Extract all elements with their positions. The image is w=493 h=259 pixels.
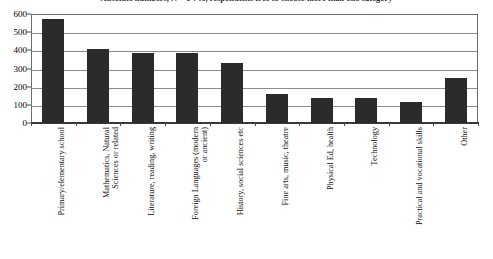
x-axis-category-label: Literature, reading, writing xyxy=(147,127,156,255)
x-axis-category-label: Practical and vocational skills xyxy=(415,127,424,255)
y-tick-label-200: 200 xyxy=(14,82,28,91)
x-tick xyxy=(389,123,390,126)
bar xyxy=(132,53,154,123)
bar xyxy=(311,98,333,123)
x-tick xyxy=(210,123,211,126)
x-tick xyxy=(255,123,256,126)
x-axis-category-label: Mathematics, Natural Sciences or related xyxy=(102,127,121,255)
x-tick xyxy=(344,123,345,126)
x-axis-category-label: Primary/elementary school xyxy=(57,127,66,255)
x-axis-category-label: Foreign Languages (modern or ancient) xyxy=(191,127,210,255)
y-tick-label-100: 100 xyxy=(14,100,28,109)
x-axis-category-label: Physical Ed, health xyxy=(326,127,335,255)
x-tick xyxy=(433,123,434,126)
x-axis-labels: Primary/elementary schoolMathematics, Na… xyxy=(31,127,478,259)
bar xyxy=(355,98,377,123)
y-tick-label-600: 600 xyxy=(14,10,28,19)
bar xyxy=(400,102,422,123)
y-axis: 6005004003002001000 xyxy=(0,14,27,123)
bar-chart-figure: Absolute numbers, N = 1 746, respondents… xyxy=(0,0,493,259)
bar xyxy=(87,49,109,123)
y-tick-label-300: 300 xyxy=(14,64,28,73)
x-axis-category-label: Fine arts, music, theatre xyxy=(281,127,290,255)
x-tick xyxy=(120,123,121,126)
bar xyxy=(266,94,288,123)
x-tick xyxy=(31,123,32,126)
x-axis-category-label: Other xyxy=(460,127,469,255)
bar xyxy=(445,78,467,123)
x-tick xyxy=(478,123,479,126)
x-axis-category-label: Technology xyxy=(370,127,379,255)
bars-container xyxy=(31,14,478,123)
bar xyxy=(176,53,198,123)
x-tick xyxy=(76,123,77,126)
x-tick xyxy=(299,123,300,126)
y-tick-label-400: 400 xyxy=(14,46,28,55)
y-tick-label-500: 500 xyxy=(14,28,28,37)
bar xyxy=(221,63,243,123)
x-tick xyxy=(165,123,166,126)
x-axis-category-label: History, social sciences etc xyxy=(236,127,245,255)
chart-title: Absolute numbers, N = 1 746, respondents… xyxy=(0,0,493,3)
bar xyxy=(42,19,64,123)
